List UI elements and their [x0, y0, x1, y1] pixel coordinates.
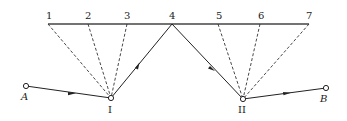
node-B — [323, 85, 328, 90]
node-II — [240, 96, 245, 101]
node-label-A: A — [20, 91, 28, 102]
route-diagram: 1 2 3 4 5 6 7 A I II B — [0, 0, 347, 121]
point-label-6: 6 — [258, 10, 264, 21]
node-label-B: B — [319, 93, 327, 104]
point-label-3: 3 — [124, 10, 130, 21]
node-label-II: II — [238, 104, 246, 115]
dashed-lines-node-I — [48, 24, 127, 98]
segment-A-I — [26, 86, 111, 98]
segment-4-II — [172, 24, 243, 99]
node-label-I: I — [108, 104, 112, 115]
point-label-4: 4 — [169, 10, 175, 21]
node-I — [108, 95, 113, 100]
point-label-5: 5 — [216, 10, 222, 21]
node-A — [23, 83, 28, 88]
point-label-2: 2 — [85, 10, 91, 21]
point-label-1: 1 — [46, 10, 52, 21]
solid-route — [26, 24, 326, 99]
dashed-lines-node-II — [218, 24, 309, 99]
segment-I-4 — [111, 24, 172, 98]
point-label-7: 7 — [306, 10, 312, 21]
